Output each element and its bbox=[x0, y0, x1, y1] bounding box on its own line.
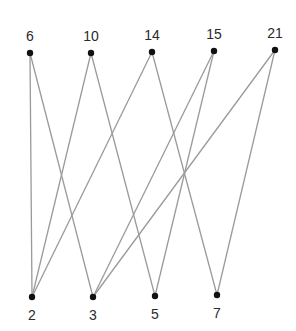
node-6: 6 bbox=[26, 28, 34, 56]
edge-21-3 bbox=[93, 50, 275, 297]
node-label: 14 bbox=[144, 27, 160, 43]
node-dot bbox=[272, 47, 278, 53]
edge-14-2 bbox=[32, 52, 152, 297]
node-21: 21 bbox=[267, 25, 283, 53]
edge-6-2 bbox=[30, 53, 32, 297]
edge-15-3 bbox=[93, 51, 214, 297]
node-label: 3 bbox=[89, 307, 97, 323]
node-dot bbox=[90, 294, 96, 300]
node-15: 15 bbox=[206, 26, 222, 54]
node-label: 5 bbox=[151, 306, 159, 322]
node-label: 7 bbox=[213, 305, 221, 321]
node-label: 6 bbox=[26, 28, 34, 44]
edge-21-7 bbox=[217, 50, 275, 295]
node-dot bbox=[211, 48, 217, 54]
node-dot bbox=[214, 292, 220, 298]
bipartite-divisibility-graph: 6101415212357 bbox=[0, 0, 296, 331]
node-dot bbox=[149, 49, 155, 55]
edge-10-5 bbox=[91, 53, 155, 296]
node-5: 5 bbox=[151, 293, 159, 322]
node-14: 14 bbox=[144, 27, 160, 55]
node-label: 2 bbox=[28, 307, 36, 323]
nodes-group: 6101415212357 bbox=[26, 25, 283, 323]
node-label: 21 bbox=[267, 25, 283, 41]
node-10: 10 bbox=[83, 28, 99, 56]
node-7: 7 bbox=[213, 292, 221, 321]
node-label: 15 bbox=[206, 26, 222, 42]
edges-group bbox=[30, 50, 275, 297]
node-dot bbox=[88, 50, 94, 56]
node-dot bbox=[152, 293, 158, 299]
node-dot bbox=[27, 50, 33, 56]
edge-10-2 bbox=[32, 53, 91, 297]
node-dot bbox=[29, 294, 35, 300]
node-2: 2 bbox=[28, 294, 36, 323]
node-label: 10 bbox=[83, 28, 99, 44]
node-3: 3 bbox=[89, 294, 97, 323]
